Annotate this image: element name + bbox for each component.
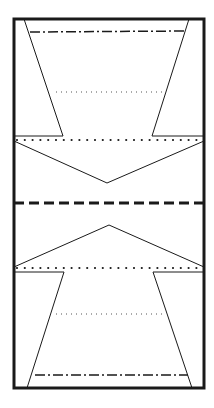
bottom-chevron bbox=[14, 225, 204, 267]
top-trapezoid-left-edge bbox=[14, 19, 63, 136]
top-chevron bbox=[14, 141, 204, 183]
top-trapezoid-zone bbox=[14, 19, 204, 136]
top-dash-dot-line bbox=[30, 31, 186, 32]
top-trapezoid-right-edge bbox=[152, 19, 204, 136]
bottom-trapezoid-zone bbox=[14, 272, 204, 388]
bottom-trapezoid-right-edge bbox=[153, 272, 204, 388]
bottom-trapezoid-left-edge bbox=[14, 272, 64, 388]
court-diagram bbox=[0, 0, 214, 408]
